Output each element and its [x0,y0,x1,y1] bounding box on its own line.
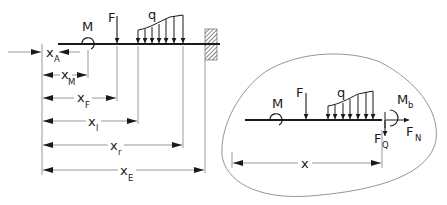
dimension-x-E: x E [43,163,204,183]
distributed-load-icon [328,91,373,119]
extension-lines [42,44,205,175]
svg-text:l: l [96,123,98,133]
free-body-outline [222,54,437,197]
left-beam-diagram: M F q x A [8,7,220,183]
distributed-load-label: q [337,85,345,100]
dimension-x-l-label: x [88,114,96,129]
dimension-x: x [232,130,382,171]
svg-text:E: E [128,173,133,183]
right-free-body-diagram: M F q M b F Q F N [222,54,437,197]
svg-text:F: F [85,100,90,110]
force-label: F [108,10,115,25]
dimension-x-r: x r [43,138,182,157]
svg-text:r: r [118,147,122,157]
svg-text:A: A [54,54,60,64]
dimension-x-A-label: x [46,45,54,60]
dimension-x-E-label: x [120,163,128,178]
dimension-x-M: x M [43,67,87,87]
dimension-x-label: x [301,156,309,171]
shear-force-label: F [374,131,381,146]
svg-text:b: b [408,100,413,110]
dimension-x-F: x F [43,90,116,110]
normal-force-label: F [406,124,413,139]
dimension-x-A: x A [8,45,80,64]
svg-text:Q: Q [382,140,389,150]
dimension-x-r-label: x [110,138,118,153]
dimension-x-F-label: x [77,90,85,105]
distributed-load-label: q [148,7,156,22]
moment-label: M [82,19,93,34]
bending-moment-label: M [397,92,408,107]
moment-label: M [272,96,283,111]
distributed-load-icon [138,15,183,43]
force-label: F [296,85,303,100]
svg-text:N: N [415,133,421,143]
beam-diagram-canvas: M F q x A [0,0,447,205]
dimension-x-l: x l [43,114,137,133]
bending-moment-icon [390,110,398,126]
svg-text:M: M [68,77,75,87]
